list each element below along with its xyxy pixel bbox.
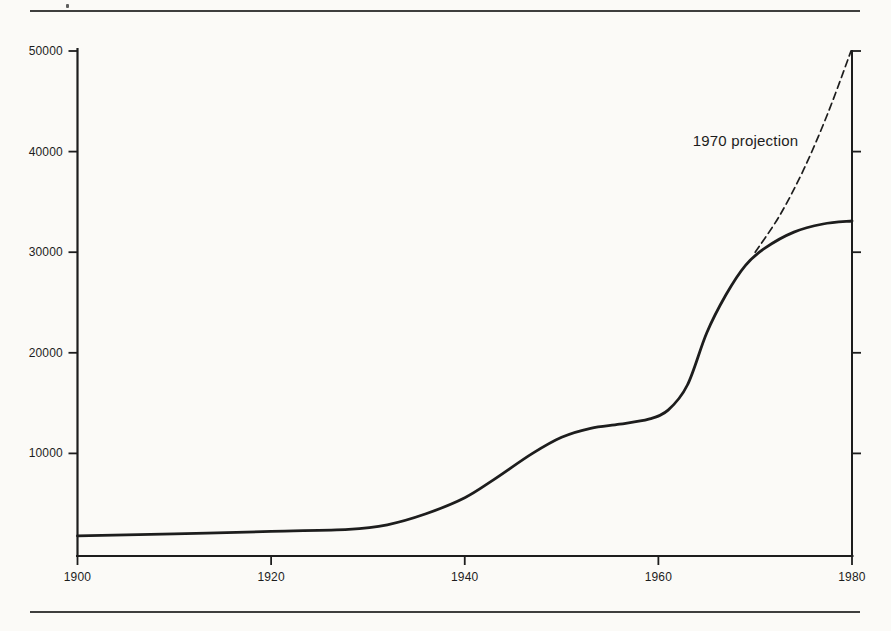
y-axis-tick-label: 20000 [29, 346, 63, 360]
x-axis-tick-label: 1920 [257, 570, 285, 584]
y-axis-tick-label: 40000 [29, 145, 63, 159]
projection-annotation: 1970 projection [693, 132, 799, 150]
line-chart [0, 0, 891, 631]
bottom-rule [30, 611, 860, 613]
scanned-page: 1000020000300004000050000190019201940196… [0, 0, 891, 631]
x-axis-tick-label: 1960 [645, 570, 673, 584]
y-axis-tick-label: 10000 [29, 446, 63, 460]
x-axis-tick-label: 1940 [451, 570, 479, 584]
actual-series-line [78, 221, 853, 536]
x-axis-tick-label: 1980 [838, 570, 866, 584]
x-axis-tick-label: 1900 [64, 570, 92, 584]
y-axis-tick-label: 50000 [29, 44, 63, 58]
y-axis-tick-label: 30000 [29, 245, 63, 259]
